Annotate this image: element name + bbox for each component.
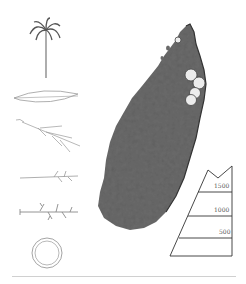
- elevation-label-500: 500: [219, 228, 230, 235]
- elevation-label-1500: 1500: [214, 182, 229, 189]
- occurrence-marker: [175, 37, 181, 43]
- elevation-label-1000: 1000: [214, 206, 229, 213]
- elevation-profile: 1500 1000 500: [168, 164, 240, 260]
- bottom-divider: [12, 276, 236, 277]
- occurrence-marker: [186, 95, 197, 106]
